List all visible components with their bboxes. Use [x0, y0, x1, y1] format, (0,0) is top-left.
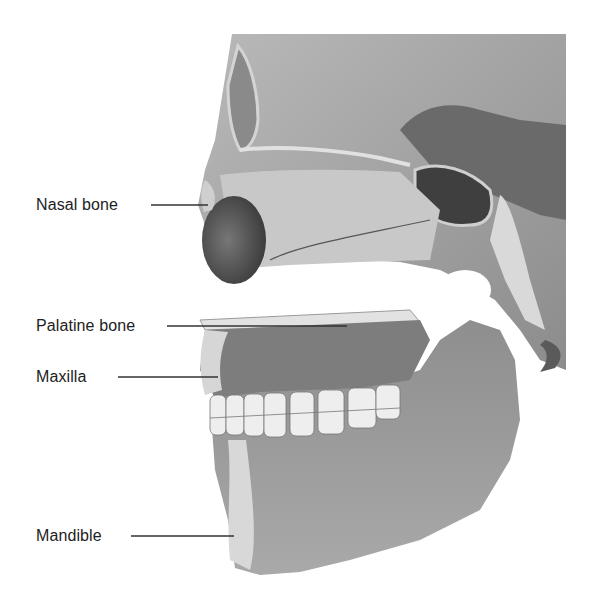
- label-palatine-bone: Palatine bone: [36, 317, 135, 335]
- label-nasal-bone: Nasal bone: [36, 196, 118, 214]
- label-maxilla: Maxilla: [36, 368, 87, 386]
- leader-lines: [0, 0, 598, 610]
- skull-diagram: Nasal bone Palatine bone Maxilla Mandibl…: [0, 0, 598, 610]
- label-mandible: Mandible: [36, 527, 102, 545]
